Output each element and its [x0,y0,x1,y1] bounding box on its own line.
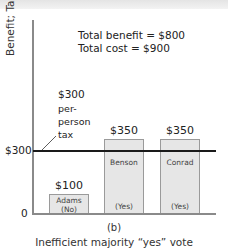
bar-conrad-name: Conrad [161,158,199,167]
chart-caption: Inefficient majority “yes” vote [0,236,228,248]
bar-adams: Adams (No) [49,194,89,214]
bar-adams-name: Adams [50,196,88,205]
bar-benson-name: Benson [105,158,143,167]
y-axis [32,20,34,215]
bar-adams-value: $100 [49,179,89,192]
bar-benson-vote: (Yes) [105,202,143,211]
y-tick-300: $300 [5,144,32,156]
tax-reference-line [33,150,216,152]
y-tick-0: 0 [21,207,28,219]
x-axis [32,213,216,215]
bar-benson-value: $350 [104,124,144,137]
bar-conrad-vote: (Yes) [161,202,199,211]
bar-chart: Benefit; Tax Total benefit = $800 Total … [0,0,228,251]
subfigure-label: (b) [0,222,228,233]
bar-conrad-value: $350 [160,124,200,137]
